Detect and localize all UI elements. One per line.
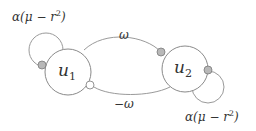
edge-u2-to-u1 (94, 87, 170, 95)
node-label-u2: u2 (174, 59, 192, 79)
self-loop-label-u1: α(μ − r2) (12, 10, 66, 23)
gray-dot-icon (38, 61, 46, 69)
white-dot-icon (86, 81, 94, 89)
gray-dot-icon (157, 48, 165, 56)
edge-label-omega: ω (119, 29, 129, 41)
gray-dot-icon (204, 66, 212, 74)
coupled-oscillator-diagram: u1 u2 ω −ω α(μ − r2) α(μ − r2) (0, 0, 256, 131)
node-label-u1: u1 (58, 62, 76, 82)
edge-label-neg-omega: −ω (114, 98, 134, 110)
self-loop-label-u2: α(μ − r2) (185, 110, 239, 123)
